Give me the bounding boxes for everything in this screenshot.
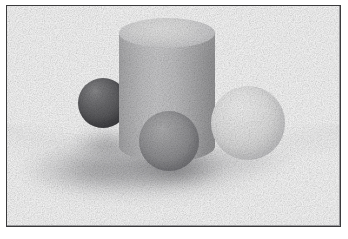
picture-frame	[6, 5, 341, 227]
cylinder-top-face	[119, 18, 215, 48]
rendered-3d-scene	[7, 6, 340, 226]
medium-sphere	[139, 111, 199, 171]
light-sphere	[211, 86, 285, 160]
screenshot-root	[0, 0, 348, 239]
